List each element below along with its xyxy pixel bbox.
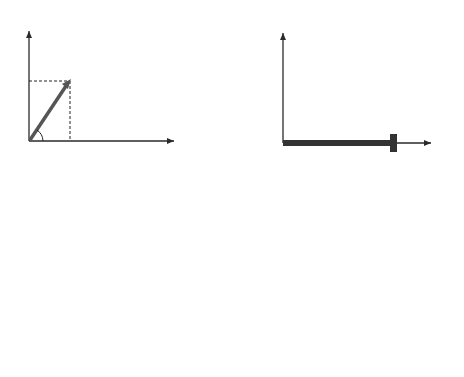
gamma-arc xyxy=(37,130,43,141)
flux-vector xyxy=(283,140,393,146)
stator-diagram-a xyxy=(29,31,174,141)
dq-vector-diagram xyxy=(0,0,464,377)
is-vector xyxy=(30,86,66,140)
rotor-diagram-a xyxy=(283,33,431,152)
